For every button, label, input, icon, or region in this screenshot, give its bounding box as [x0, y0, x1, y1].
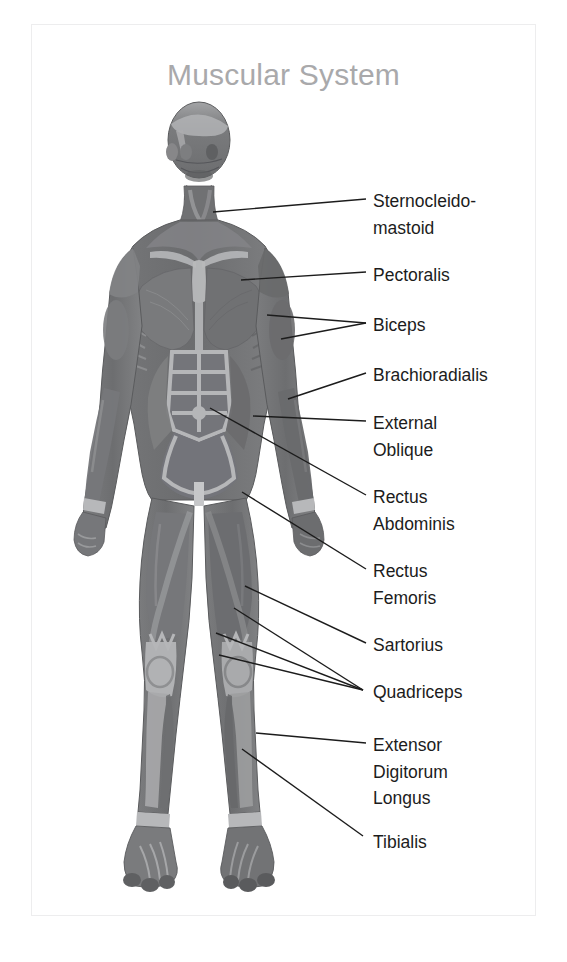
label-extensor-digitorum-longus: Extensor Digitorum Longus: [373, 732, 448, 812]
label-external-oblique: External Oblique: [373, 410, 437, 463]
label-quadriceps: Quadriceps: [373, 679, 463, 706]
label-sternocleidomastoid: Sternocleido- mastoid: [373, 188, 476, 241]
leader-line-sternocleidomastoid: [213, 199, 366, 212]
left-arm-group: [74, 248, 142, 556]
page-root: Muscular System: [0, 0, 567, 962]
leader-line-extensor-digitorum-longus: [256, 733, 366, 743]
label-rectus-femoris: Rectus Femoris: [373, 558, 436, 611]
label-biceps: Biceps: [373, 312, 426, 339]
leader-line-brachioradialis: [288, 373, 366, 399]
torso-group: [118, 220, 280, 506]
head-group: [166, 102, 230, 222]
left-leg-group: [123, 498, 194, 892]
label-rectus-abdominis: Rectus Abdominis: [373, 484, 455, 537]
rectus-abdominis-shape: [168, 352, 230, 440]
muscular-system-figure: [0, 0, 567, 962]
leader-line-sartorius: [245, 586, 366, 643]
label-pectoralis: Pectoralis: [373, 262, 450, 289]
label-brachioradialis: Brachioradialis: [373, 362, 488, 389]
right-leg-group: [204, 498, 275, 892]
label-tibialis: Tibialis: [373, 829, 427, 856]
body-figure: [74, 102, 324, 892]
right-arm-group: [256, 248, 324, 556]
label-sartorius: Sartorius: [373, 632, 443, 659]
